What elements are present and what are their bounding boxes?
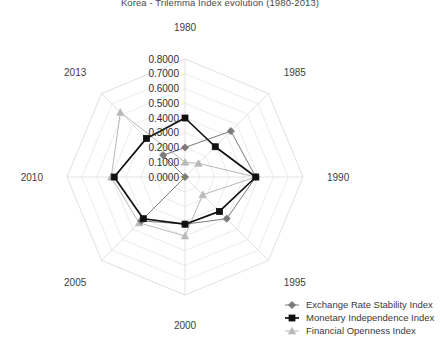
radial-tick-label: 0.8000 (148, 54, 179, 65)
radar-radial-ticks: 0.00000.10000.20000.30000.40000.50000.60… (148, 54, 179, 183)
radar-chart: Korea - Trilemma Index evolution (1980-2… (0, 0, 440, 342)
radial-tick-label: 0.3000 (148, 127, 179, 138)
radial-tick-label: 0.4000 (148, 113, 179, 124)
radial-tick-label: 0.7000 (148, 68, 179, 79)
series-point (182, 115, 188, 121)
radial-tick-label: 0.6000 (148, 83, 179, 94)
series-point (253, 174, 259, 180)
legend-label: Financial Openness Index (306, 325, 416, 336)
category-label: 1985 (284, 67, 307, 78)
series-point (111, 174, 117, 180)
radial-tick-label: 0.0000 (148, 172, 179, 183)
series-point (181, 144, 188, 151)
series-point (182, 221, 188, 227)
series-point (181, 159, 188, 165)
series-point (216, 208, 222, 214)
category-label: 2005 (64, 277, 87, 288)
chart-legend: Exchange Rate Stability IndexMonetary In… (285, 299, 435, 336)
radar-plot-area: 19801985199019952000200520102013 0.00000… (0, 0, 440, 342)
radial-tick-label: 0.2000 (148, 142, 179, 153)
category-label: 2000 (174, 320, 197, 331)
series-point (212, 144, 218, 150)
category-label: 1995 (284, 277, 307, 288)
radar-series (108, 109, 260, 239)
category-label: 2013 (64, 67, 87, 78)
category-label: 1990 (327, 172, 350, 183)
radial-tick-label: 0.1000 (148, 157, 179, 168)
legend-label: Monetary Independence Index (306, 312, 435, 323)
legend-label: Exchange Rate Stability Index (306, 299, 433, 310)
radar-series-layer (108, 109, 260, 239)
category-label: 2010 (21, 172, 44, 183)
radial-tick-label: 0.5000 (148, 98, 179, 109)
legend-marker (288, 301, 295, 308)
category-label: 1980 (174, 22, 197, 33)
series-point (140, 216, 146, 222)
legend-marker (289, 315, 295, 321)
